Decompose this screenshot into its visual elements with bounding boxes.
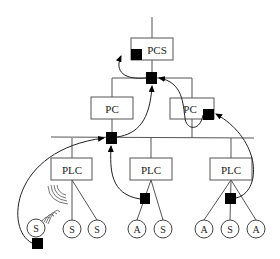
actuator-node: A [128,220,146,238]
svg-text:S: S [227,224,233,235]
svg-text:A: A [200,224,208,235]
svg-text:S: S [160,224,166,235]
pc-right-label: PC [183,103,196,115]
top-junction-marker [146,72,157,84]
control-network-diagram: PCS PC PC PLC PLC PLC S S S [0,0,280,259]
pc-node-left: PC [91,97,133,119]
pcs-marker [131,49,142,60]
actuator-node: A [195,220,213,238]
plc-2-label: PLC [141,164,161,176]
svg-text:A: A [133,224,141,235]
field-devices: S S S A S A S A [27,219,265,238]
sensor-node: S [88,220,106,238]
sensor-node: S [154,220,172,238]
sensor-node: S [221,220,239,238]
actuator-node: A [247,220,265,238]
plc-2-marker [140,193,150,204]
svg-text:A: A [252,224,260,235]
plc-node-1: PLC [51,158,92,180]
sensor-marker [32,238,43,249]
plc-node-3: PLC [210,158,252,180]
pc-right-marker [203,109,214,120]
plc-3-label: PLC [221,164,241,176]
svg-text:S: S [69,224,75,235]
wireless-icon [42,210,60,224]
bus-junction-marker [106,132,117,144]
pc-left-label: PC [105,103,118,115]
pcs-label: PCS [147,44,167,56]
plc-1-label: PLC [62,164,82,176]
compromise-markers [32,49,236,249]
sensor-node: S [27,219,45,237]
wireless-icon [48,185,68,204]
plc-node-2: PLC [130,158,172,180]
sensor-node: S [63,220,81,238]
svg-text:S: S [94,224,100,235]
svg-text:S: S [33,223,39,234]
plc-3-marker [225,193,236,204]
